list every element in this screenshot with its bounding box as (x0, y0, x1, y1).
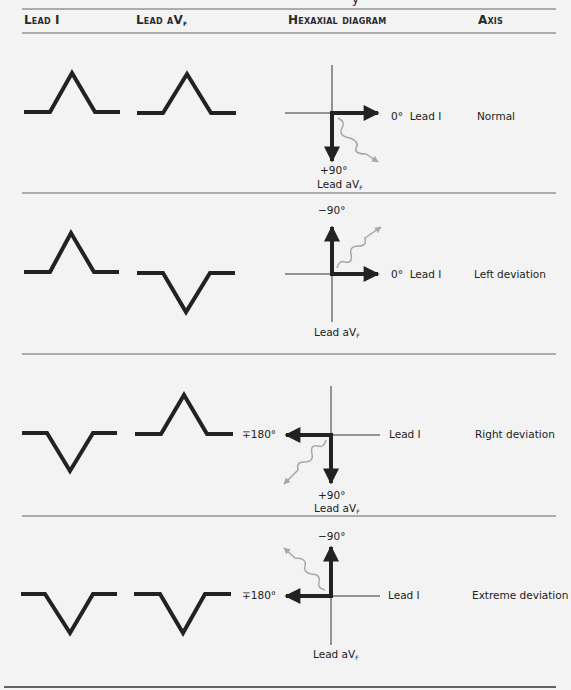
minus-plus-180-label: ∓180° (242, 589, 276, 601)
axis-label: Left deviation (474, 268, 546, 280)
lead-avf-label: Lead aVF (314, 502, 360, 515)
lead-i-waveform (24, 73, 120, 112)
column-header-hexaxial: Hexaxial diagram (288, 13, 386, 27)
lead-avf-label: Lead aVF (313, 648, 359, 661)
cutoff-title-fragment: y (352, 0, 359, 6)
lead-avf-label: Lead aVF (317, 178, 363, 191)
zero-degree-label: 0° Lead I (391, 110, 441, 122)
lead-avf-waveform (135, 395, 233, 434)
axis-label: Extreme deviation (472, 589, 568, 601)
axis-label: Right deviation (475, 428, 555, 440)
lead-avf-waveform (137, 273, 235, 312)
column-header-lead-avf: Lead aVLead aVF (136, 13, 187, 27)
plus90-label: +90° (320, 164, 347, 176)
hexaxial-right (284, 386, 380, 484)
axis-deviation-diagram (0, 0, 571, 690)
hexaxial-normal (285, 65, 378, 162)
minus-plus-180-label: ∓180° (242, 428, 276, 440)
minus90-label: −90° (318, 204, 345, 216)
hexaxial-extreme (284, 547, 380, 645)
lead-i-label: Lead I (388, 589, 420, 601)
hexaxial-left (285, 227, 381, 322)
lead-i-waveform (21, 594, 117, 633)
column-header-axis: Axis (478, 13, 503, 27)
zero-degree-label: 0° Lead I (391, 268, 441, 280)
plus90-label: +90° (318, 489, 345, 501)
lead-avf-waveform (137, 74, 236, 113)
lead-i-label: Lead I (389, 428, 421, 440)
minus90-label: −90° (318, 530, 345, 542)
lead-i-waveform (24, 233, 119, 272)
axis-label: Normal (477, 110, 515, 122)
lead-i-waveform (22, 433, 117, 471)
lead-avf-label: Lead aVF (314, 326, 360, 339)
column-header-lead-i: Lead I (24, 13, 60, 27)
lead-avf-waveform (134, 594, 231, 633)
